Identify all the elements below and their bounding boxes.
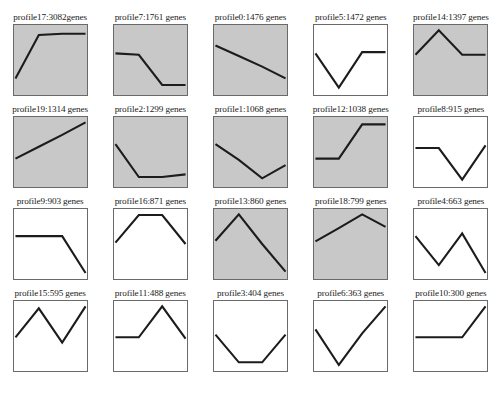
profile-panel-title: profile17:3082genes	[13, 12, 87, 23]
profile-line-chart	[314, 25, 387, 95]
profile-line	[15, 236, 85, 273]
profile-panel[interactable]: profile17:3082genes	[0, 12, 100, 104]
profile-line-chart	[114, 25, 187, 95]
profile-panel[interactable]: profile9:903 genes	[0, 196, 100, 288]
profile-line	[115, 306, 185, 338]
profile-plot-box[interactable]	[313, 116, 388, 188]
profile-line-chart	[314, 209, 387, 279]
profile-panel[interactable]: profile15:595 genes	[0, 288, 100, 380]
profile-panel[interactable]: profile3:404 genes	[200, 288, 300, 380]
profile-plot-box[interactable]	[213, 208, 288, 280]
profile-grid: profile17:3082genesprofile7:1761 genespr…	[0, 0, 501, 401]
profile-panel-title: profile11:488 genes	[115, 288, 186, 299]
profile-panel[interactable]: profile14:1397 genes	[401, 12, 501, 104]
profile-line	[316, 214, 386, 241]
profile-panel[interactable]: profile16:871 genes	[100, 196, 200, 288]
profile-panel[interactable]: profile1:1068 genes	[200, 104, 300, 196]
profile-line	[15, 306, 85, 342]
profile-line-chart	[114, 301, 187, 371]
profile-panel-title: profile18:799 genes	[315, 196, 386, 207]
profile-line	[316, 124, 386, 158]
profile-plot-box[interactable]	[213, 300, 288, 372]
profile-line-chart	[14, 117, 87, 187]
profile-panel-title: profile15:595 genes	[14, 288, 85, 299]
profile-line	[215, 144, 285, 178]
profile-line	[215, 46, 285, 79]
profile-line-chart	[414, 25, 487, 95]
profile-line	[416, 233, 486, 272]
profile-line-chart	[214, 209, 287, 279]
profile-panel[interactable]: profile10:300 genes	[401, 288, 501, 380]
profile-plot-box[interactable]	[213, 116, 288, 188]
profile-line-chart	[14, 301, 87, 371]
profile-plot-box[interactable]	[113, 24, 188, 96]
profile-panel-title: profile0:1476 genes	[215, 12, 286, 23]
profile-line	[215, 214, 285, 271]
profile-plot-box[interactable]	[413, 24, 488, 96]
profile-panel[interactable]: profile8:915 genes	[401, 104, 501, 196]
profile-panel[interactable]: profile6:363 genes	[301, 288, 401, 380]
profile-plot-box[interactable]	[13, 24, 88, 96]
profile-panel-title: profile14:1397 genes	[413, 12, 489, 23]
profile-plot-box[interactable]	[313, 300, 388, 372]
profile-panel-title: profile7:1761 genes	[115, 12, 186, 23]
profile-line	[416, 145, 486, 179]
profile-line	[316, 52, 386, 88]
profile-panel-title: profile8:915 genes	[417, 104, 484, 115]
profile-panel-title: profile4:663 genes	[417, 196, 484, 207]
profile-panel[interactable]: profile19:1314 genes	[0, 104, 100, 196]
profile-plot-box[interactable]	[113, 208, 188, 280]
profile-plot-box[interactable]	[13, 208, 88, 280]
profile-panel-title: profile13:860 genes	[215, 196, 286, 207]
profile-line-chart	[414, 117, 487, 187]
profile-plot-box[interactable]	[413, 208, 488, 280]
profile-panel[interactable]: profile13:860 genes	[200, 196, 300, 288]
profile-panel-title: profile5:1472 genes	[315, 12, 386, 23]
profile-panel-title: profile1:1068 genes	[215, 104, 286, 115]
profile-line	[215, 335, 285, 363]
profile-line-chart	[14, 209, 87, 279]
profile-panel[interactable]: profile0:1476 genes	[200, 12, 300, 104]
profile-line	[115, 144, 185, 177]
profile-line	[115, 53, 185, 85]
profile-panel[interactable]: profile4:663 genes	[401, 196, 501, 288]
profile-panel[interactable]: profile2:1299 genes	[100, 104, 200, 196]
profile-line-chart	[214, 301, 287, 371]
profile-line-chart	[14, 25, 87, 95]
profile-plot-box[interactable]	[413, 300, 488, 372]
profile-panel[interactable]: profile5:1472 genes	[301, 12, 401, 104]
profile-line-chart	[214, 25, 287, 95]
profile-plot-box[interactable]	[113, 116, 188, 188]
profile-line-chart	[214, 117, 287, 187]
profile-panel-title: profile16:871 genes	[115, 196, 186, 207]
profile-panel-title: profile12:1038 genes	[313, 104, 389, 115]
profile-line	[416, 306, 486, 337]
profile-panel-title: profile19:1314 genes	[12, 104, 88, 115]
profile-panel-title: profile3:404 genes	[217, 288, 284, 299]
profile-panel[interactable]: profile11:488 genes	[100, 288, 200, 380]
profile-plot-box[interactable]	[13, 116, 88, 188]
profile-panel-title: profile10:300 genes	[415, 288, 486, 299]
profile-line-chart	[414, 301, 487, 371]
profile-line-chart	[114, 117, 187, 187]
profile-line	[15, 122, 85, 158]
profile-plot-box[interactable]	[113, 300, 188, 372]
profile-plot-box[interactable]	[313, 24, 388, 96]
profile-line	[416, 30, 486, 54]
profile-line-chart	[314, 301, 387, 371]
profile-line	[316, 306, 386, 365]
profile-plot-box[interactable]	[213, 24, 288, 96]
profile-panel[interactable]: profile18:799 genes	[301, 196, 401, 288]
profile-plot-box[interactable]	[13, 300, 88, 372]
profile-panel-title: profile2:1299 genes	[115, 104, 186, 115]
profile-line-chart	[114, 209, 187, 279]
profile-line-chart	[314, 117, 387, 187]
profile-plot-box[interactable]	[413, 116, 488, 188]
profile-panel[interactable]: profile12:1038 genes	[301, 104, 401, 196]
profile-panel-title: profile9:903 genes	[17, 196, 84, 207]
profile-panel[interactable]: profile7:1761 genes	[100, 12, 200, 104]
profile-line	[115, 215, 185, 244]
profile-line-chart	[414, 209, 487, 279]
profile-plot-box[interactable]	[313, 208, 388, 280]
profile-panel-title: profile6:363 genes	[317, 288, 384, 299]
